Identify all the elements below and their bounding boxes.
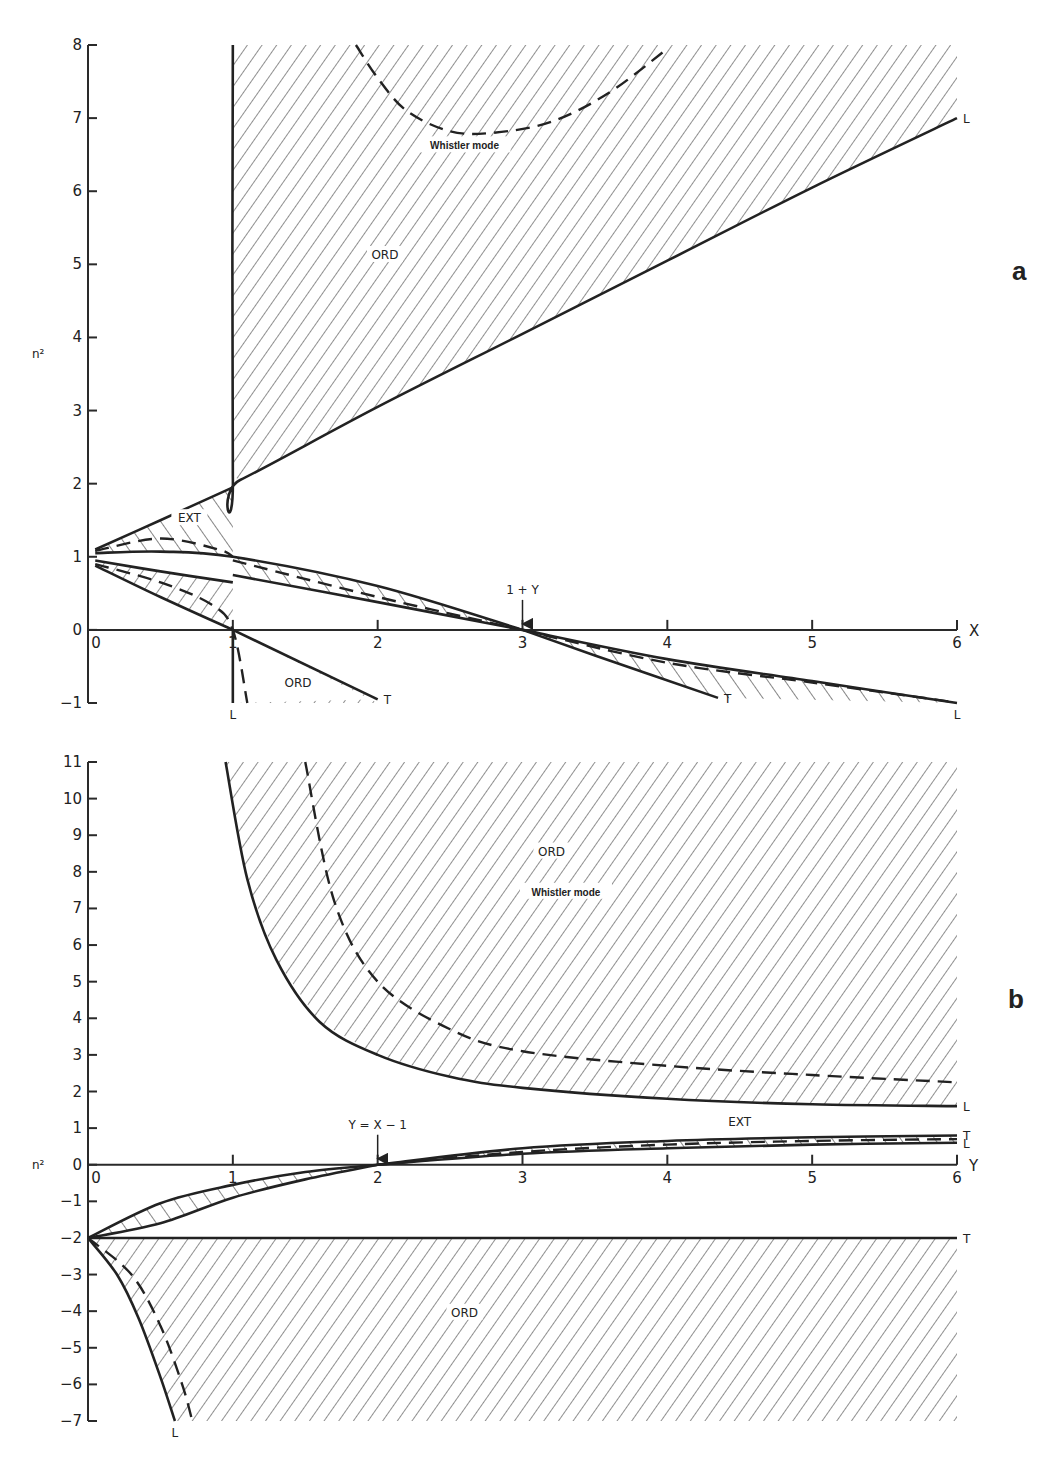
mid-band-hatch <box>233 557 523 630</box>
x-axis-label: X <box>969 622 979 640</box>
region-label: EXT <box>178 511 202 525</box>
curve-end-label: T <box>962 1232 971 1246</box>
region-label: ORD <box>451 1306 478 1320</box>
y-tick-label: −4 <box>60 1302 82 1320</box>
whistler-region-hatch <box>233 45 957 480</box>
curve-end-label: L <box>963 1137 970 1151</box>
panel-b-letter: b <box>1008 984 1024 1014</box>
x-axis-label: Y <box>968 1157 979 1175</box>
curve-end-label: L <box>172 1426 179 1440</box>
y-tick-label: 5 <box>72 973 82 991</box>
region-label: Whistler mode <box>430 140 499 151</box>
region-label: EXT <box>728 1115 752 1129</box>
y-tick-label: 10 <box>63 790 82 808</box>
region-label: Whistler mode <box>531 887 600 898</box>
y-tick-label: 6 <box>72 936 82 954</box>
y-tick-label: 8 <box>72 36 82 54</box>
y-tick-label: −2 <box>60 1229 82 1247</box>
y-tick-label: −5 <box>60 1339 82 1357</box>
y-tick-label: 4 <box>72 328 82 346</box>
x-tick-label: 6 <box>952 634 962 652</box>
x-tick-label: 0 <box>91 1169 101 1187</box>
y-tick-label: −1 <box>60 1192 82 1210</box>
x-tick-label: 0 <box>91 634 101 652</box>
y-tick-label: 2 <box>72 1083 82 1101</box>
y-tick-label: 6 <box>72 182 82 200</box>
y-tick-label: 1 <box>72 1119 82 1137</box>
x-tick-label: 3 <box>518 634 528 652</box>
x-tick-label: 4 <box>663 634 673 652</box>
y-tick-label: −3 <box>60 1266 82 1284</box>
ord-negative-region-hatch <box>88 1238 957 1421</box>
y-tick-label: 8 <box>72 863 82 881</box>
region-label: ORD <box>538 845 565 859</box>
curve-end-label: T <box>723 692 732 706</box>
y-tick-label: −1 <box>60 694 82 712</box>
x-tick-label: 3 <box>518 1169 528 1187</box>
y-tick-label: 1 <box>72 548 82 566</box>
y-tick-label: −7 <box>60 1412 82 1430</box>
dispersion-figure: −10123456780123456Xn²LTLLT1 + YWhistler … <box>0 0 1056 1460</box>
y-tick-label: −6 <box>60 1375 82 1393</box>
y-tick-label: 11 <box>63 753 82 771</box>
curve-end-label: T <box>383 693 392 707</box>
hatched-regions <box>88 762 957 1421</box>
hatched-regions <box>95 45 957 703</box>
panel-b-chart: −7−6−5−4−3−2−1012345678910110123456Yn²LT… <box>32 753 979 1440</box>
y-tick-label: 5 <box>72 255 82 273</box>
x-tick-label: 6 <box>952 1169 962 1187</box>
panel-a-letter: a <box>1012 256 1027 286</box>
y-tick-label: 3 <box>72 1046 82 1064</box>
y-tick-label: 2 <box>72 475 82 493</box>
curve-end-label: L <box>963 1100 970 1114</box>
y-axis-label: n² <box>32 347 45 361</box>
x-tick-label: 4 <box>663 1169 673 1187</box>
y-tick-label: 0 <box>72 621 82 639</box>
x-tick-label: 5 <box>807 1169 817 1187</box>
curve-end-label: L <box>229 708 236 722</box>
curve-end-label: L <box>954 708 961 722</box>
x-tick-label: 2 <box>373 634 383 652</box>
y-tick-label: 3 <box>72 402 82 420</box>
x-tick-label: 5 <box>807 634 817 652</box>
y-tick-label: 0 <box>72 1156 82 1174</box>
y-axis-label: n² <box>32 1158 45 1172</box>
x-tick-label: 2 <box>373 1169 383 1187</box>
y-tick-label: 4 <box>72 1009 82 1027</box>
y-tick-label: 7 <box>72 109 82 127</box>
whistler-region-hatch <box>226 762 957 1106</box>
region-label: ORD <box>284 676 311 690</box>
y-tick-label: 9 <box>72 826 82 844</box>
panel-a-chart: −10123456780123456Xn²LTLLT1 + YWhistler … <box>32 36 979 722</box>
curve-end-label: L <box>963 112 970 126</box>
annotation-label: 1 + Y <box>506 583 539 597</box>
region-label: ORD <box>371 248 398 262</box>
y-tick-label: 7 <box>72 899 82 917</box>
annotation-label: Y = X − 1 <box>347 1118 407 1132</box>
